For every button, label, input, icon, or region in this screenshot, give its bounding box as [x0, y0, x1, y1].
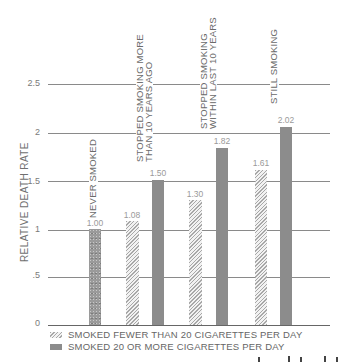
y-tick-1-5: 1.5: [20, 176, 40, 186]
y-tick-0-5: .5: [20, 270, 40, 280]
legend-item-20-or-more: SMOKED 20 OR MORE CIGARETTES PER DAY: [50, 341, 285, 352]
bar-stopped-more-than-10-light: [126, 221, 139, 325]
value-label-stopped-more-than-10-light: 1.08: [117, 210, 147, 220]
bar-stopped-within-10-light: [189, 200, 202, 325]
bar-never-smoked: [89, 229, 101, 325]
bar-stopped-within-10-heavy: [216, 148, 228, 325]
group-label-still-smoking: STILL SMOKING: [270, 29, 279, 104]
legend-item-fewer-than-20: SMOKED FEWER THAN 20 CIGARETTES PER DAY: [50, 329, 302, 340]
bar-stopped-more-than-10-heavy: [152, 180, 164, 325]
y-tick-2: 2: [20, 127, 40, 137]
value-label-stopped-within-10-light: 1.30: [180, 189, 210, 199]
y-tick-0: 0: [20, 318, 40, 328]
gridline-0: [48, 325, 330, 326]
y-tick-1: 1: [20, 224, 40, 234]
gridline-2-5: [48, 84, 330, 85]
y-axis-label: RELATIVE DEATH RATE: [19, 142, 30, 262]
group-label-stopped-more-than-10: STOPPED SMOKING MORE THAN 10 YEARS AGO: [136, 34, 153, 162]
bar-still-smoking-heavy: [280, 127, 292, 325]
group-label-never-smoked: NEVER SMOKED: [89, 139, 98, 218]
cutoff-caption-fragment: [110, 356, 340, 362]
value-label-stopped-within-10-heavy: 1.82: [207, 136, 237, 146]
value-label-stopped-more-than-10-heavy: 1.50: [143, 168, 173, 178]
value-label-still-smoking-heavy: 2.02: [271, 115, 301, 125]
y-tick-2-5: 2.5: [20, 78, 40, 88]
hatch-swatch-icon: [50, 332, 62, 338]
value-label-never-smoked: 1.00: [80, 218, 110, 228]
relative-death-rate-chart: RELATIVE DEATH RATE 2.5 2 1.5 1 .5 0 NEV…: [0, 0, 347, 362]
value-label-still-smoking-light: 1.61: [246, 158, 276, 168]
solid-swatch-icon: [50, 344, 62, 350]
bar-still-smoking-light: [255, 170, 267, 325]
group-label-stopped-within-10: STOPPED SMOKING WITHIN LAST 10 YEARS: [200, 17, 217, 129]
